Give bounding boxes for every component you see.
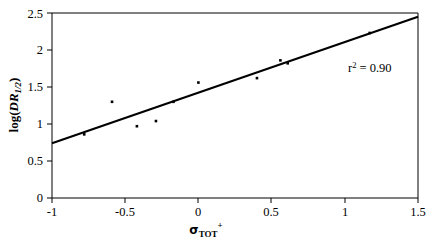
x-tick-label-5: 1.5 [410, 205, 426, 219]
r-squared-annotation: r2 = 0.90 [348, 60, 392, 75]
y-axis-tick-labels: 0 0.5 1 1.5 2 2.5 [27, 7, 43, 205]
y-tick-label-1: 0.5 [27, 154, 43, 168]
data-point [155, 120, 158, 123]
x-tick-label-4: 1 [342, 205, 348, 219]
scatter-plot-svg: 0 0.5 1 1.5 2 2.5 -1 -0.5 0 0.5 1 1.5 [0, 0, 435, 242]
chart-figure: 0 0.5 1 1.5 2 2.5 -1 -0.5 0 0.5 1 1.5 [0, 0, 435, 242]
data-point [279, 59, 282, 62]
x-axis-title-superscript: + [218, 220, 223, 230]
x-axis-tick-labels: -1 -0.5 0 0.5 1 1.5 [47, 205, 426, 219]
y-axis-title-italic: DR [6, 93, 21, 112]
x-axis-ticks [52, 198, 418, 203]
axes-frame [52, 13, 418, 198]
regression-line [52, 17, 418, 144]
data-point [197, 81, 200, 84]
y-tick-label-5: 2.5 [27, 7, 43, 21]
x-axis-title: σTOT+ [189, 220, 222, 239]
data-point [256, 77, 259, 80]
y-tick-label-0: 0 [37, 191, 43, 205]
y-axis-title-prefix: log( [6, 111, 21, 132]
y-tick-label-3: 1.5 [27, 80, 43, 94]
data-point [286, 62, 289, 65]
svg-text:σTOT+: σTOT+ [189, 220, 222, 239]
r-squared-rest: = 0.90 [356, 61, 391, 75]
x-axis-title-subscript: TOT [199, 229, 218, 239]
data-point [111, 101, 114, 104]
y-axis-ticks [47, 13, 52, 198]
x-tick-label-2: 0 [195, 205, 201, 219]
y-axis-title: log(DR1/2) [6, 78, 23, 133]
data-point [136, 125, 139, 128]
y-axis-title-suffix: ) [6, 78, 21, 82]
x-tick-label-3: 0.5 [263, 205, 279, 219]
data-point [83, 133, 86, 136]
y-axis-title-subscript: 1/2 [13, 81, 23, 93]
svg-text:log(DR1/2): log(DR1/2) [6, 78, 23, 133]
y-tick-label-2: 1 [37, 117, 43, 131]
svg-text:r2 = 0.90: r2 = 0.90 [348, 60, 392, 75]
x-tick-label-0: -1 [47, 205, 57, 219]
x-tick-label-1: -0.5 [115, 205, 135, 219]
data-point [172, 101, 175, 104]
y-tick-label-4: 2 [37, 43, 43, 57]
x-axis-title-symbol: σ [189, 223, 198, 237]
data-point [368, 32, 371, 35]
